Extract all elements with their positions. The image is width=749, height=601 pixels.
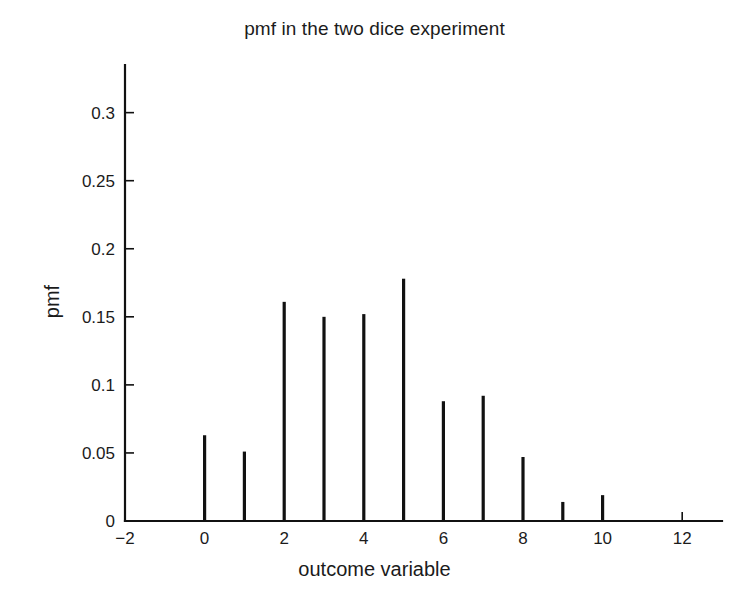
x-tick-label: −2 <box>115 529 134 548</box>
stem-series <box>205 279 603 521</box>
y-tick-label: 0.2 <box>91 240 115 259</box>
x-tick-label: 10 <box>593 529 612 548</box>
y-tick-label: 0.05 <box>82 444 115 463</box>
y-axis-label: pmf <box>41 242 64 362</box>
x-tick-label: 4 <box>359 529 368 548</box>
plot-area: −202468101200.050.10.150.20.250.3 <box>0 0 749 601</box>
x-tick-label: 12 <box>673 529 692 548</box>
tick-labels: −202468101200.050.10.150.20.250.3 <box>82 104 692 548</box>
y-tick-label: 0.1 <box>91 376 115 395</box>
x-tick-label: 6 <box>439 529 448 548</box>
figure-canvas: pmf in the two dice experiment −20246810… <box>0 0 749 601</box>
axes <box>125 65 722 521</box>
y-tick-label: 0.15 <box>82 308 115 327</box>
y-tick-label: 0.25 <box>82 172 115 191</box>
y-tick-label: 0.3 <box>91 104 115 123</box>
x-axis-label: outcome variable <box>0 558 749 581</box>
y-tick-label: 0 <box>106 512 115 531</box>
x-tick-label: 2 <box>279 529 288 548</box>
x-tick-label: 0 <box>200 529 209 548</box>
x-tick-label: 8 <box>518 529 527 548</box>
